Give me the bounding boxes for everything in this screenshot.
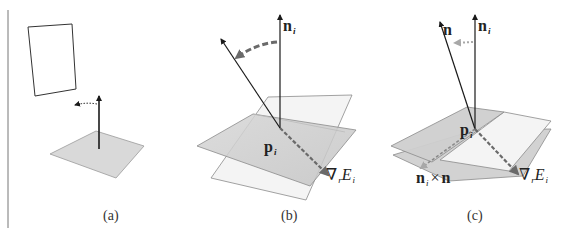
caption-a: (a) bbox=[103, 209, 119, 223]
label-n: n bbox=[283, 17, 292, 34]
label-gradient: ∇rEi bbox=[519, 167, 548, 185]
label-sub: i bbox=[488, 26, 491, 36]
cross-operator: × bbox=[430, 169, 439, 186]
label-cross-product: ni×n bbox=[416, 170, 450, 188]
label-n: n bbox=[441, 169, 450, 186]
rotation-hint-dotted-arrow bbox=[75, 103, 97, 105]
rotation-dotted-arrow bbox=[455, 42, 473, 43]
label-n: n bbox=[416, 169, 425, 186]
panel-a bbox=[28, 24, 144, 178]
label-sub: i bbox=[470, 130, 473, 140]
caption-b: (b) bbox=[281, 209, 297, 223]
label-sub: i bbox=[545, 175, 548, 185]
label-sub: i bbox=[293, 26, 296, 36]
panel-c bbox=[391, 15, 551, 181]
label-p: p bbox=[460, 121, 469, 138]
caption-c: (c) bbox=[467, 209, 483, 223]
nabla-symbol: ∇ bbox=[326, 166, 337, 183]
label-sub: i bbox=[352, 175, 355, 185]
label-n: n bbox=[443, 21, 452, 38]
label-p: p bbox=[264, 138, 273, 155]
label-new-normal-n: n bbox=[443, 22, 452, 38]
label-point-pi: pi bbox=[460, 122, 472, 140]
nabla-symbol: ∇ bbox=[519, 166, 530, 183]
label-point-pi: pi bbox=[264, 139, 276, 157]
label-normal-ni: ni bbox=[283, 18, 295, 36]
label-gradient: ∇rEi bbox=[326, 167, 355, 185]
label-n: n bbox=[478, 17, 487, 34]
label-E: E bbox=[342, 166, 352, 183]
surface-patch bbox=[50, 131, 144, 178]
image-plane-frame bbox=[28, 24, 76, 96]
label-sub: i bbox=[426, 178, 429, 188]
tilted-normal-arrow bbox=[221, 39, 280, 128]
rotation-dashed-arrow bbox=[236, 42, 277, 58]
label-normal-ni: ni bbox=[478, 18, 490, 36]
label-E: E bbox=[535, 166, 545, 183]
label-sub: i bbox=[274, 147, 277, 157]
